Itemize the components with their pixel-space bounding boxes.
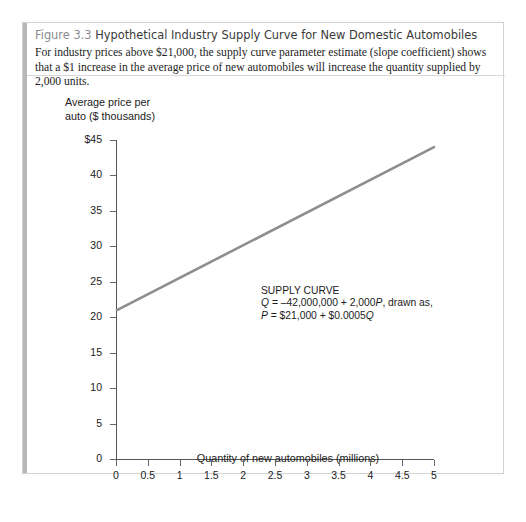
y-axis-tick-label: 25 xyxy=(60,275,102,287)
x-axis-tick xyxy=(116,460,117,466)
y-axis-tick xyxy=(110,353,116,354)
y-axis-tick xyxy=(110,175,116,176)
annotation-heading: SUPPLY CURVE xyxy=(261,285,433,297)
x-axis-tick xyxy=(370,460,371,466)
y-axis-tick xyxy=(110,140,116,141)
x-axis-tick xyxy=(243,460,244,466)
supply-curve-annotation: SUPPLY CURVE Q = –42,000,000 + 2,000P, d… xyxy=(261,285,433,322)
y-axis-tick-label: 30 xyxy=(60,239,102,251)
chart-plot-area: Average price perauto ($ thousands) SUPP… xyxy=(23,23,505,475)
x-axis-tick xyxy=(402,460,403,466)
x-axis-tick xyxy=(434,460,435,466)
x-axis-tick xyxy=(180,460,181,466)
x-axis-tick xyxy=(307,460,308,466)
y-axis-tick-label: 40 xyxy=(60,168,102,180)
annotation-eq2-var-p: P xyxy=(261,310,268,321)
y-axis-tick xyxy=(110,211,116,212)
x-axis-tick xyxy=(211,460,212,466)
x-axis-tick xyxy=(339,460,340,466)
y-axis-tick-label: 15 xyxy=(60,346,102,358)
y-axis-tick-label: 35 xyxy=(60,204,102,216)
annotation-eq1-var-q: Q xyxy=(261,297,269,308)
annotation-equation-2: P = $21,000 + $0.0005Q xyxy=(261,310,433,322)
y-axis-tick-label: 5 xyxy=(60,417,102,429)
x-axis-tick-label: 5 xyxy=(414,469,454,481)
x-axis-title: Quantity of new automobiles (millions) xyxy=(123,452,453,464)
annotation-eq1-mid: = –42,000,000 + 2,000 xyxy=(269,297,376,308)
x-axis-tick xyxy=(275,460,276,466)
y-axis-line xyxy=(116,140,117,460)
y-axis-title: Average price perauto ($ thousands) xyxy=(65,96,155,123)
figure-container: Figure 3.3 Hypothetical Industry Supply … xyxy=(22,22,504,474)
y-axis-tick xyxy=(110,282,116,283)
y-axis-tick-label: $45 xyxy=(60,133,102,145)
y-axis-tick xyxy=(110,246,116,247)
y-axis-tick xyxy=(110,388,116,389)
y-axis-tick xyxy=(110,317,116,318)
annotation-eq2-var-q: Q xyxy=(366,310,374,321)
y-axis-tick xyxy=(110,424,116,425)
annotation-equation-1: Q = –42,000,000 + 2,000P, drawn as, xyxy=(261,297,433,309)
y-axis-tick-label: 20 xyxy=(60,310,102,322)
annotation-eq1-tail: , drawn as, xyxy=(382,297,432,308)
annotation-eq2-mid: = $21,000 + $0.0005 xyxy=(268,310,366,321)
y-axis-title-line2: auto ($ thousands) xyxy=(65,110,155,122)
y-axis-tick-label: 0 xyxy=(60,452,102,464)
y-axis-title-line1: Average price per xyxy=(65,96,150,108)
x-axis-tick xyxy=(148,460,149,466)
y-axis-tick-label: 10 xyxy=(60,381,102,393)
